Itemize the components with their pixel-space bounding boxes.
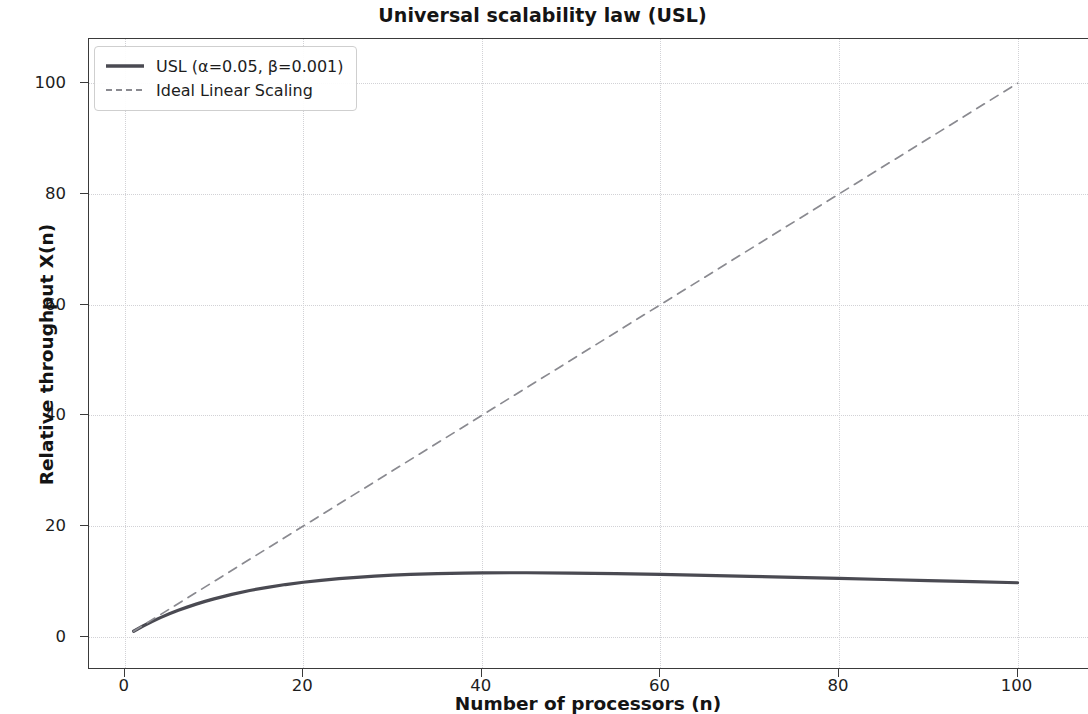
x-tick-mark: [838, 669, 839, 677]
x-tick-mark: [124, 669, 125, 677]
x-tick-mark: [302, 669, 303, 677]
x-tick-mark: [1017, 669, 1018, 677]
solid-line-swatch: [105, 59, 145, 73]
plot-area: [88, 38, 1088, 669]
y-tick-mark: [80, 82, 88, 83]
legend-item-usl[interactable]: USL (α=0.05, β=0.001): [105, 54, 344, 78]
usl-curve: [134, 573, 1018, 632]
chart-curves: [89, 39, 1088, 669]
y-tick-mark: [80, 414, 88, 415]
x-axis-title: Number of processors (n): [88, 693, 1088, 714]
y-axis-title: Relative throughput X(n): [36, 35, 57, 675]
y-tick-mark: [80, 193, 88, 194]
legend-label-ideal: Ideal Linear Scaling: [156, 81, 313, 100]
y-tick-mark: [80, 525, 88, 526]
x-tick-mark: [659, 669, 660, 677]
chart-title: Universal scalability law (USL): [0, 4, 1085, 26]
y-tick-mark: [80, 636, 88, 637]
y-tick-mark: [80, 304, 88, 305]
legend-item-ideal[interactable]: Ideal Linear Scaling: [105, 78, 344, 102]
legend-label-usl: USL (α=0.05, β=0.001): [156, 57, 344, 76]
y-tick-label: 0: [56, 626, 67, 645]
x-tick-mark: [481, 669, 482, 677]
ideal-linear-curve: [134, 83, 1018, 631]
chart-legend: USL (α=0.05, β=0.001) Ideal Linear Scali…: [94, 46, 357, 111]
dashed-line-swatch: [105, 83, 145, 97]
